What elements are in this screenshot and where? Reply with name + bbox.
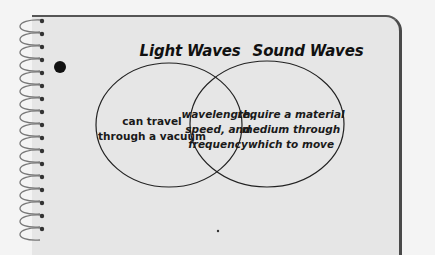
sound-waves-title: Sound Waves xyxy=(253,42,364,60)
binding-holes-icon xyxy=(40,19,44,231)
light-waves-title: Light Waves xyxy=(140,42,241,60)
text-line: require a material xyxy=(237,107,344,122)
hole-punch-icon xyxy=(54,61,66,73)
text-line: which to move xyxy=(237,137,344,152)
sound-waves-unique-text: require a material medium through which … xyxy=(237,107,344,152)
spiral-binding-icon xyxy=(20,20,42,240)
stray-dot-icon xyxy=(217,230,219,232)
text-line: medium through xyxy=(237,122,344,137)
